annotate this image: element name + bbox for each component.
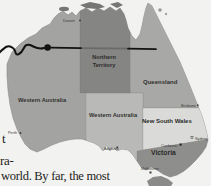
label-south-australia-mislabeled: Western Australia [89, 112, 138, 118]
region-northern-territory [80, 0, 130, 93]
city-label-perth: Perth [8, 131, 17, 135]
ink-annotation-line-left [51, 48, 81, 49]
text-fragment-1: t [2, 131, 5, 147]
body-text-line: world. By far, the most [1, 169, 110, 184]
scanned-book-page: Northern Territory Queensland Western Au… [0, 0, 211, 186]
label-western-australia: Western Australia [18, 97, 67, 103]
city-label-sydney: Sydney [195, 137, 208, 141]
city-marker-darwin [79, 20, 81, 22]
label-northern-territory-line2: Territory [93, 62, 116, 68]
ink-annotation-dot [44, 44, 51, 51]
city-marker-canberra [180, 144, 182, 146]
island-melville [59, 7, 69, 11]
label-victoria: Victoria [151, 149, 176, 156]
island-cape-york [158, 8, 162, 12]
city-marker-perth [20, 132, 22, 134]
ink-annotation-line-right [128, 49, 156, 50]
city-label-melbourne: Melbourne [141, 167, 159, 171]
label-queensland: Queensland [143, 79, 178, 85]
city-marker-adelaide [117, 147, 119, 149]
text-fragment-2: ra- [0, 153, 14, 169]
label-northern-territory-line1: Northern [92, 54, 116, 60]
label-new-south-wales: New South Wales [142, 118, 192, 124]
city-marker-brisbane [197, 105, 199, 107]
island-coral-sea [165, 13, 167, 15]
city-label-canberra: Canberra [161, 144, 178, 148]
city-label-darwin: Darwin [63, 19, 75, 23]
city-marker-melbourne [150, 172, 152, 174]
australia-map: Northern Territory Queensland Western Au… [0, 0, 211, 186]
city-label-brisbane: Brisbane [181, 104, 196, 108]
